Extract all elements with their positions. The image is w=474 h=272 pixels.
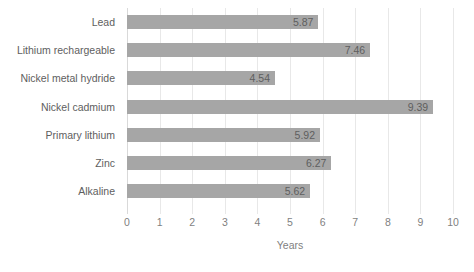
- bar-row: 5.62: [127, 177, 453, 205]
- category-label: Nickel cadmium: [0, 93, 121, 121]
- plot-area: 5.877.464.549.395.926.275.62: [127, 8, 453, 214]
- category-label: Primary lithium: [0, 121, 121, 149]
- bar-row: 4.54: [127, 64, 453, 92]
- tick-label-4: 4: [254, 216, 260, 228]
- tick-label-3: 3: [222, 216, 228, 228]
- tick-label-10: 10: [447, 216, 459, 228]
- category-label: Lithium rechargeable: [0, 36, 121, 64]
- bar-rows: 5.877.464.549.395.926.275.62: [127, 8, 453, 214]
- category-axis-labels: LeadLithium rechargeableNickel metal hyd…: [0, 8, 121, 214]
- tick-label-6: 6: [320, 216, 326, 228]
- bar-row: 5.92: [127, 121, 453, 149]
- tick-label-2: 2: [189, 216, 195, 228]
- bar-row: 7.46: [127, 36, 453, 64]
- bar-value-label: 7.46: [127, 43, 365, 57]
- bar-value-label: 5.87: [127, 15, 313, 29]
- bar-row: 6.27: [127, 149, 453, 177]
- bar-value-label: 5.62: [127, 184, 305, 198]
- bar-row: 5.87: [127, 8, 453, 36]
- tick-label-5: 5: [287, 216, 293, 228]
- category-label: Nickel metal hydride: [0, 64, 121, 92]
- category-label: Alkaline: [0, 177, 121, 205]
- category-label: Lead: [0, 8, 121, 36]
- tick-label-0: 0: [124, 216, 130, 228]
- tick-label-7: 7: [352, 216, 358, 228]
- bar-chart: LeadLithium rechargeableNickel metal hyd…: [0, 0, 474, 272]
- bar-value-label: 9.39: [127, 100, 428, 114]
- bar-value-label: 5.92: [127, 128, 315, 142]
- category-label: Zinc: [0, 149, 121, 177]
- bar-row: 9.39: [127, 93, 453, 121]
- tick-label-1: 1: [157, 216, 163, 228]
- bar-value-label: 4.54: [127, 71, 270, 85]
- x-axis-title: Years: [127, 239, 453, 251]
- gridline-10: [453, 8, 454, 214]
- value-axis-tick-labels: 012345678910: [127, 216, 453, 234]
- tick-label-9: 9: [417, 216, 423, 228]
- bar-value-label: 6.27: [127, 156, 326, 170]
- tick-label-8: 8: [385, 216, 391, 228]
